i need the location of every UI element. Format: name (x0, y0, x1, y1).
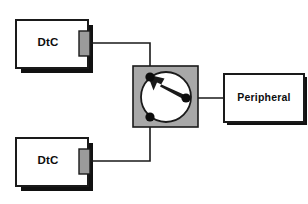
switch-assembly[interactable] (133, 66, 198, 127)
terminal-upper-left[interactable] (145, 72, 154, 81)
dtc-bottom-port[interactable] (79, 149, 90, 174)
dtc-top-port[interactable] (79, 31, 90, 56)
pivot-right[interactable] (181, 93, 190, 102)
dtc-bottom-label: DtC (16, 154, 80, 166)
diagram-canvas: DtC DtC Peripheral (0, 0, 308, 204)
dtc-top-label: DtC (16, 36, 80, 48)
peripheral-label: Peripheral (224, 91, 304, 103)
terminal-lower-left[interactable] (145, 112, 154, 121)
